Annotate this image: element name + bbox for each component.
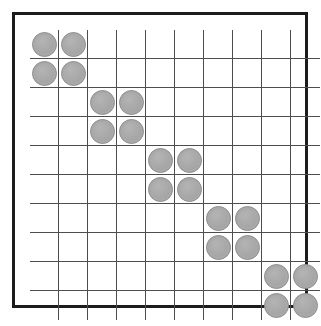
grid-cell-occupied[interactable] bbox=[117, 117, 146, 146]
grid-cell-empty[interactable] bbox=[117, 59, 146, 88]
grid-cell-empty[interactable] bbox=[117, 30, 146, 59]
grid-cell-empty[interactable] bbox=[59, 204, 88, 233]
grid-cell-empty[interactable] bbox=[204, 117, 233, 146]
grid-cell-empty[interactable] bbox=[30, 262, 59, 291]
disc-piece[interactable] bbox=[206, 206, 231, 231]
grid-cell-empty[interactable] bbox=[146, 291, 175, 320]
grid-cell-occupied[interactable] bbox=[175, 146, 204, 175]
grid-cell-empty[interactable] bbox=[291, 146, 320, 175]
grid-cell-empty[interactable] bbox=[146, 88, 175, 117]
grid-cell-empty[interactable] bbox=[291, 59, 320, 88]
grid-cell-empty[interactable] bbox=[88, 30, 117, 59]
grid-cell-empty[interactable] bbox=[291, 88, 320, 117]
grid-cell-occupied[interactable] bbox=[204, 233, 233, 262]
grid-cell-empty[interactable] bbox=[30, 88, 59, 117]
grid-cell-empty[interactable] bbox=[146, 59, 175, 88]
disc-piece[interactable] bbox=[90, 90, 115, 115]
grid-cell-empty[interactable] bbox=[262, 146, 291, 175]
grid-cell-empty[interactable] bbox=[30, 291, 59, 320]
grid-cell-occupied[interactable] bbox=[262, 291, 291, 320]
grid-cell-empty[interactable] bbox=[204, 291, 233, 320]
grid-cell-empty[interactable] bbox=[233, 59, 262, 88]
grid-cell-empty[interactable] bbox=[59, 262, 88, 291]
grid-board[interactable] bbox=[30, 30, 320, 320]
grid-cell-occupied[interactable] bbox=[175, 175, 204, 204]
grid-cell-occupied[interactable] bbox=[59, 30, 88, 59]
grid-cell-empty[interactable] bbox=[88, 262, 117, 291]
grid-cell-empty[interactable] bbox=[117, 233, 146, 262]
grid-cell-occupied[interactable] bbox=[59, 59, 88, 88]
grid-cell-empty[interactable] bbox=[146, 204, 175, 233]
grid-cell-occupied[interactable] bbox=[88, 117, 117, 146]
grid-cell-empty[interactable] bbox=[175, 117, 204, 146]
disc-piece[interactable] bbox=[90, 119, 115, 144]
grid-cell-empty[interactable] bbox=[88, 204, 117, 233]
grid-cell-empty[interactable] bbox=[291, 175, 320, 204]
disc-piece[interactable] bbox=[119, 119, 144, 144]
disc-piece[interactable] bbox=[206, 235, 231, 260]
grid-cell-empty[interactable] bbox=[88, 59, 117, 88]
grid-cell-empty[interactable] bbox=[146, 117, 175, 146]
grid-cell-empty[interactable] bbox=[59, 233, 88, 262]
grid-cell-empty[interactable] bbox=[262, 175, 291, 204]
disc-piece[interactable] bbox=[235, 206, 260, 231]
grid-cell-empty[interactable] bbox=[59, 291, 88, 320]
grid-cell-empty[interactable] bbox=[291, 30, 320, 59]
grid-cell-occupied[interactable] bbox=[233, 204, 262, 233]
disc-piece[interactable] bbox=[61, 32, 86, 57]
grid-cell-occupied[interactable] bbox=[204, 204, 233, 233]
grid-cell-occupied[interactable] bbox=[117, 88, 146, 117]
grid-cell-empty[interactable] bbox=[175, 204, 204, 233]
grid-cell-empty[interactable] bbox=[291, 233, 320, 262]
grid-cell-empty[interactable] bbox=[175, 262, 204, 291]
grid-cell-empty[interactable] bbox=[291, 117, 320, 146]
disc-piece[interactable] bbox=[32, 61, 57, 86]
grid-cell-empty[interactable] bbox=[88, 291, 117, 320]
grid-cell-empty[interactable] bbox=[30, 117, 59, 146]
disc-piece[interactable] bbox=[32, 32, 57, 57]
grid-cell-empty[interactable] bbox=[233, 30, 262, 59]
grid-cell-empty[interactable] bbox=[233, 88, 262, 117]
disc-piece[interactable] bbox=[148, 148, 173, 173]
disc-piece[interactable] bbox=[293, 293, 318, 318]
grid-cell-empty[interactable] bbox=[117, 175, 146, 204]
grid-cell-empty[interactable] bbox=[262, 204, 291, 233]
grid-cell-empty[interactable] bbox=[262, 30, 291, 59]
grid-cell-occupied[interactable] bbox=[30, 59, 59, 88]
grid-cell-empty[interactable] bbox=[204, 175, 233, 204]
grid-cell-empty[interactable] bbox=[146, 233, 175, 262]
grid-cell-occupied[interactable] bbox=[233, 233, 262, 262]
grid-cell-empty[interactable] bbox=[204, 262, 233, 291]
grid-cell-occupied[interactable] bbox=[262, 262, 291, 291]
grid-cell-empty[interactable] bbox=[175, 30, 204, 59]
grid-cell-empty[interactable] bbox=[59, 88, 88, 117]
disc-piece[interactable] bbox=[293, 264, 318, 289]
grid-cell-occupied[interactable] bbox=[146, 175, 175, 204]
disc-piece[interactable] bbox=[177, 177, 202, 202]
grid-cell-empty[interactable] bbox=[146, 30, 175, 59]
grid-cell-empty[interactable] bbox=[175, 88, 204, 117]
disc-piece[interactable] bbox=[235, 235, 260, 260]
grid-cell-empty[interactable] bbox=[233, 175, 262, 204]
grid-cell-occupied[interactable] bbox=[30, 30, 59, 59]
grid-cell-empty[interactable] bbox=[262, 117, 291, 146]
grid-cell-occupied[interactable] bbox=[88, 88, 117, 117]
grid-cell-empty[interactable] bbox=[117, 204, 146, 233]
grid-cell-empty[interactable] bbox=[30, 175, 59, 204]
disc-piece[interactable] bbox=[264, 293, 289, 318]
grid-cell-empty[interactable] bbox=[262, 233, 291, 262]
disc-piece[interactable] bbox=[177, 148, 202, 173]
grid-cell-empty[interactable] bbox=[233, 117, 262, 146]
grid-cell-empty[interactable] bbox=[30, 146, 59, 175]
grid-cell-empty[interactable] bbox=[204, 30, 233, 59]
grid-cell-empty[interactable] bbox=[233, 262, 262, 291]
grid-cell-empty[interactable] bbox=[146, 262, 175, 291]
grid-cell-empty[interactable] bbox=[233, 146, 262, 175]
grid-cell-empty[interactable] bbox=[204, 59, 233, 88]
grid-cell-empty[interactable] bbox=[88, 233, 117, 262]
grid-cell-empty[interactable] bbox=[59, 146, 88, 175]
grid-cell-empty[interactable] bbox=[117, 262, 146, 291]
grid-cell-empty[interactable] bbox=[59, 117, 88, 146]
grid-cell-empty[interactable] bbox=[291, 204, 320, 233]
grid-cell-empty[interactable] bbox=[88, 175, 117, 204]
